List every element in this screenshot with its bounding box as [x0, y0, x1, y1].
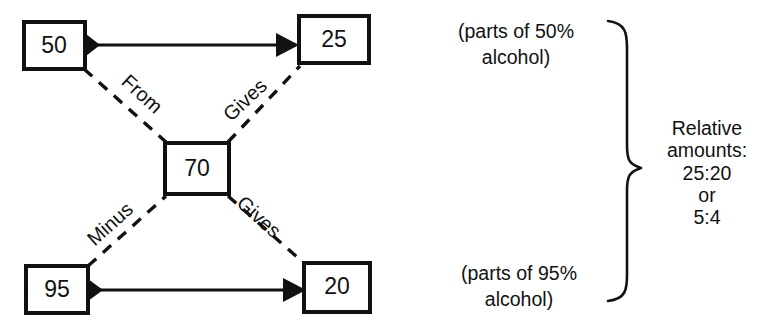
link-label-gives-upper: Gives — [219, 74, 271, 125]
caption-top-line1: (parts of 50% — [458, 20, 574, 42]
arrow-head-left-bottom — [88, 279, 103, 301]
arrow-head-right-top — [276, 33, 299, 57]
curly-brace — [608, 21, 641, 301]
link-label-minus: Minus — [83, 198, 137, 250]
node-center: 70 — [165, 143, 229, 194]
solid-arrow-top — [86, 33, 299, 57]
summary-line1: Relative — [672, 117, 742, 139]
node-center-value: 70 — [184, 155, 210, 181]
alligation-diagram: From Gives Minus Gives 50 25 70 95 20 (p… — [0, 0, 765, 332]
caption-bottom: (parts of 95% alcohol) — [461, 262, 577, 310]
arrow-head-left-top — [86, 34, 100, 56]
node-top-left-value: 50 — [41, 32, 67, 58]
node-bottom-right: 20 — [304, 263, 370, 312]
link-label-from: From — [117, 70, 166, 118]
node-bottom-left-value: 95 — [44, 276, 70, 302]
caption-bottom-line1: (parts of 95% — [461, 262, 577, 284]
node-top-right: 25 — [299, 16, 369, 63]
summary-line4: or — [698, 184, 716, 206]
summary-line5: 5:4 — [693, 206, 720, 228]
solid-arrow-bottom — [88, 278, 306, 302]
summary-block: Relative amounts: 25:20 or 5:4 — [667, 117, 747, 228]
link-label-gives-lower: Gives — [233, 191, 286, 242]
summary-line3: 25:20 — [683, 162, 732, 184]
caption-top-line2: alcohol) — [482, 46, 550, 68]
node-top-right-value: 25 — [321, 26, 347, 52]
summary-line2: amounts: — [667, 139, 747, 161]
caption-top: (parts of 50% alcohol) — [458, 20, 574, 68]
node-top-left: 50 — [24, 22, 85, 69]
node-bottom-right-value: 20 — [324, 273, 350, 299]
node-bottom-left: 95 — [26, 266, 88, 313]
alligation-diagram-canvas: From Gives Minus Gives 50 25 70 95 20 (p… — [0, 0, 765, 332]
caption-bottom-line2: alcohol) — [485, 288, 553, 310]
